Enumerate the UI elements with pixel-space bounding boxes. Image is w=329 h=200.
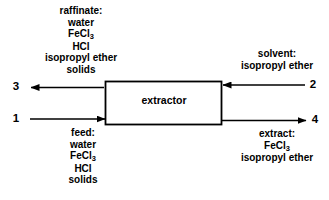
raffinate-component-solids: solids bbox=[45, 64, 117, 76]
process-flow-diagram: extractor 3 1 2 4 raffinate: water FeCl3… bbox=[0, 0, 329, 200]
raffinate-component-fecl3: FeCl3 bbox=[45, 28, 117, 41]
extract-component-fecl3: FeCl3 bbox=[241, 140, 313, 153]
feed-component-hcl: HCl bbox=[69, 163, 98, 175]
extract-component-isopropyl-ether: isopropyl ether bbox=[241, 152, 313, 164]
stream-number-1: 1 bbox=[13, 113, 19, 125]
raffinate-component-water: water bbox=[45, 17, 117, 29]
stream-number-4: 4 bbox=[312, 114, 318, 126]
stream-number-3: 3 bbox=[13, 81, 19, 93]
subscript-3: 3 bbox=[286, 144, 290, 153]
feed-component-water: water bbox=[69, 139, 98, 151]
extractor-label: extractor bbox=[142, 95, 187, 107]
stream-3-composition: raffinate: water FeCl3 HCl isopropyl eth… bbox=[45, 5, 117, 75]
raffinate-component-isopropyl-ether: isopropyl ether bbox=[45, 52, 117, 64]
raffinate-component-hcl: HCl bbox=[45, 41, 117, 53]
solvent-title: solvent: bbox=[241, 48, 313, 60]
feed-component-fecl3: FeCl3 bbox=[69, 150, 98, 163]
stream-4-composition: extract: FeCl3 isopropyl ether bbox=[241, 128, 313, 164]
feed-component-solids: solids bbox=[69, 174, 98, 186]
extract-title: extract: bbox=[241, 128, 313, 140]
raffinate-title: raffinate: bbox=[45, 5, 117, 17]
subscript-3: 3 bbox=[92, 154, 96, 163]
solvent-component-isopropyl-ether: isopropyl ether bbox=[241, 60, 313, 72]
subscript-3: 3 bbox=[90, 32, 94, 41]
stream-2-composition: solvent: isopropyl ether bbox=[241, 48, 313, 71]
feed-title: feed: bbox=[69, 127, 98, 139]
stream-1-composition: feed: water FeCl3 HCl solids bbox=[69, 127, 98, 186]
stream-number-2: 2 bbox=[310, 79, 316, 91]
